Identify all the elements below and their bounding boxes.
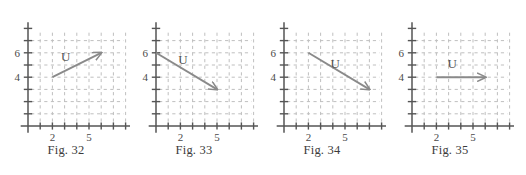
figure-strip: U2564Fig. 32U2564Fig. 33U2564Fig. 34U256… bbox=[0, 0, 526, 175]
plot-area: U2564 bbox=[130, 0, 258, 150]
grid-lines bbox=[159, 33, 254, 125]
vector-label: U bbox=[331, 56, 341, 71]
y-tick-label-4: 4 bbox=[399, 71, 405, 83]
figure-caption: Fig. 34 bbox=[258, 143, 386, 158]
vector-label: U bbox=[448, 56, 458, 71]
x-tick-label-5: 5 bbox=[342, 131, 348, 143]
grid-lines bbox=[287, 33, 382, 125]
x-tick-label-2: 2 bbox=[306, 131, 312, 143]
figure-panel: U2564Fig. 33 bbox=[130, 0, 258, 175]
x-tick-label-5: 5 bbox=[470, 131, 476, 143]
grid-lines bbox=[415, 33, 510, 125]
plot-area: U2564 bbox=[386, 0, 514, 150]
vector-label: U bbox=[61, 49, 71, 64]
axes bbox=[149, 22, 258, 132]
grid-lines bbox=[31, 33, 126, 125]
figure-panel: U2564Fig. 34 bbox=[258, 0, 386, 175]
x-tick-label-5: 5 bbox=[86, 131, 92, 143]
coordinate-plot: U2564 bbox=[130, 0, 258, 150]
figure-caption: Fig. 32 bbox=[2, 143, 130, 158]
axes bbox=[21, 22, 130, 132]
vector-label: U bbox=[178, 52, 188, 67]
y-tick-label-6: 6 bbox=[399, 47, 405, 59]
figure-caption: Fig. 35 bbox=[386, 143, 514, 158]
y-tick-label-4: 4 bbox=[271, 71, 277, 83]
coordinate-plot: U2564 bbox=[386, 0, 514, 150]
figure-panel: U2564Fig. 32 bbox=[2, 0, 130, 175]
coordinate-plot: U2564 bbox=[258, 0, 386, 150]
y-tick-label-6: 6 bbox=[15, 47, 21, 59]
x-tick-label-2: 2 bbox=[50, 131, 56, 143]
y-tick-label-6: 6 bbox=[143, 47, 149, 59]
figure-caption: Fig. 33 bbox=[130, 143, 258, 158]
plot-area: U2564 bbox=[258, 0, 386, 150]
x-tick-label-5: 5 bbox=[214, 131, 220, 143]
coordinate-plot: U2564 bbox=[2, 0, 130, 150]
y-tick-label-6: 6 bbox=[271, 47, 277, 59]
y-tick-label-4: 4 bbox=[15, 71, 21, 83]
figure-panel: U2564Fig. 35 bbox=[386, 0, 514, 175]
y-tick-label-4: 4 bbox=[143, 71, 149, 83]
x-tick-label-2: 2 bbox=[434, 131, 440, 143]
plot-area: U2564 bbox=[2, 0, 130, 150]
axes bbox=[277, 22, 386, 132]
x-tick-label-2: 2 bbox=[178, 131, 184, 143]
